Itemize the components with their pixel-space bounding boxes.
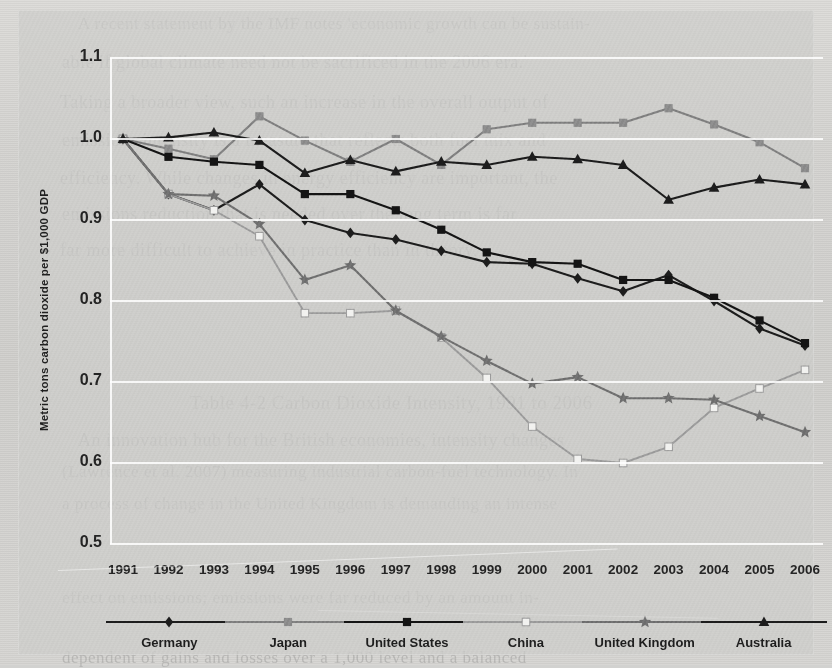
plot-area [110,58,823,544]
y-tick-label: 0.9 [62,209,102,227]
series-united-kingdom [117,133,811,438]
x-tick-label: 2003 [654,562,684,577]
x-tick-label: 1997 [381,562,411,577]
gridline [110,462,823,464]
square-black-marker [528,258,536,266]
diamond-marker [346,228,354,239]
square-gray-marker [574,119,582,127]
series-united-states [119,135,809,347]
square-white-marker [347,309,355,317]
square-black-marker [619,276,627,284]
x-tick-label: 1996 [335,562,365,577]
square-black-marker [755,316,763,324]
chart-card: Metric tons carbon dioxide per $1,000 GD… [18,10,814,655]
legend-swatch [699,615,829,629]
gridline [110,300,823,302]
x-tick-label: 2000 [517,562,547,577]
square-black-marker [301,190,309,198]
y-tick-label: 0.7 [62,371,102,389]
square-gray-marker [483,125,491,133]
x-tick-label: 1992 [153,562,183,577]
square-black-marker [437,226,445,234]
x-tick-label: 1999 [472,562,502,577]
square-white-marker [801,366,809,374]
star-gray-marker [526,377,538,389]
star-gray-marker [617,392,629,404]
gridline [110,543,823,545]
diamond-marker [255,179,263,190]
x-tick-label: 1998 [426,562,456,577]
x-tick-label: 2006 [790,562,820,577]
square-gray-marker [665,104,673,112]
x-tick-label: 1994 [244,562,274,577]
square-gray-marker [801,164,809,172]
x-tick-label: 2001 [563,562,593,577]
square-gray-marker [710,120,718,128]
x-tick-label: 2005 [745,562,775,577]
x-tick-label: 1995 [290,562,320,577]
y-tick-label: 0.8 [62,290,102,308]
square-black-marker [665,276,673,284]
gridline [110,219,823,221]
square-white-marker [710,404,718,412]
square-gray-marker [255,112,263,120]
x-tick-label: 2002 [608,562,638,577]
square-white-marker [522,618,530,626]
square-black-marker [574,260,582,268]
diamond-marker [755,323,763,334]
diamond-marker [165,617,173,628]
series-line [123,139,805,343]
square-white-marker [301,309,309,317]
square-white-marker [210,206,218,214]
square-black-marker [801,339,809,347]
x-tick-label: 1993 [199,562,229,577]
y-axis-line [110,58,112,544]
series-line [123,139,805,432]
triangle-marker [754,174,765,184]
square-white-marker [665,443,673,451]
y-tick-label: 0.6 [62,452,102,470]
gridline [110,57,823,59]
square-black-marker [392,206,400,214]
square-black-marker [346,190,354,198]
star-gray-marker [753,410,765,422]
y-tick-label: 1.0 [62,128,102,146]
series-germany [119,134,809,351]
triangle-marker [209,127,220,137]
diamond-marker [483,257,491,268]
star-gray-marker [799,426,811,438]
y-tick-label: 0.5 [62,533,102,551]
x-axis-tick-labels: 1991199219931994199519961997199819992000… [110,562,823,582]
gridline [110,381,823,383]
square-gray-marker [528,119,536,127]
square-black-marker [210,158,218,166]
square-black-marker [483,248,491,256]
legend-label: Australia [689,635,832,650]
gridline [110,138,823,140]
square-white-marker [256,232,264,240]
series-line [123,139,805,346]
chart-legend: GermanyJapanUnited StatesChinaUnited Kin… [110,615,823,667]
square-white-marker [528,423,536,431]
square-black-marker [255,161,263,169]
star-gray-marker [639,616,651,628]
square-gray-marker [619,119,627,127]
square-black-marker [403,618,411,626]
diamond-marker [573,273,581,284]
star-gray-marker [663,392,675,404]
x-tick-label: 2004 [699,562,729,577]
y-axis-title: Metric tons carbon dioxide per $1,000 GD… [38,189,50,431]
star-gray-marker [708,393,720,405]
diamond-marker [392,234,400,245]
legend-item-australia[interactable]: Australia [689,615,832,650]
diamond-marker [437,245,445,256]
square-black-marker [164,153,172,161]
x-tick-label: 1991 [108,562,138,577]
series-line [123,133,805,200]
square-gray-marker [284,618,292,626]
y-tick-label: 1.1 [62,47,102,65]
diamond-marker [619,286,627,297]
square-white-marker [756,385,764,393]
star-gray-marker [481,355,493,367]
square-gray-marker [164,145,172,153]
